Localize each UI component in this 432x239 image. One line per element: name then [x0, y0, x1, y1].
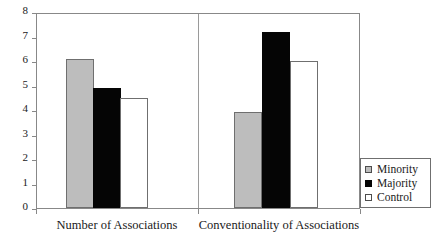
bar-chart: 876543210 Number of AssociationsConventi… — [0, 0, 432, 239]
chart-legend: MinorityMajorityControl — [360, 158, 431, 208]
x-axis-tick-mark — [36, 209, 37, 214]
x-axis-group-label: Conventionality of Associations — [169, 218, 389, 232]
bar-control-1 — [120, 98, 148, 208]
legend-swatch-icon — [365, 180, 372, 187]
y-axis-tick-label: 4 — [23, 103, 29, 114]
y-axis-tick-label: 5 — [23, 79, 29, 90]
plot-area — [36, 13, 360, 209]
bar-majority-1 — [93, 88, 121, 208]
legend-swatch-icon — [365, 194, 372, 201]
y-axis-tick-label: 8 — [23, 5, 29, 16]
legend-item-label: Minority — [377, 163, 418, 175]
legend-item-label: Control — [377, 191, 412, 203]
y-axis-tick-label: 7 — [23, 30, 29, 41]
x-axis-tick-mark — [198, 209, 199, 214]
y-axis-tick-label: 0 — [23, 201, 29, 212]
x-axis-tick-mark — [360, 209, 361, 214]
legend-item-control: Control — [365, 190, 427, 204]
y-axis-tick-label: 6 — [23, 54, 29, 65]
bar-majority-2 — [262, 32, 290, 208]
bar-control-2 — [290, 61, 318, 208]
y-axis-tick-label: 2 — [23, 152, 29, 163]
bar-minority-1 — [66, 59, 94, 208]
y-axis-tick-label: 1 — [23, 177, 29, 188]
legend-item-majority: Majority — [365, 176, 427, 190]
legend-item-label: Majority — [377, 177, 417, 189]
y-axis-tick-label: 3 — [23, 128, 29, 139]
legend-item-minority: Minority — [365, 162, 427, 176]
group-separator — [198, 14, 199, 208]
legend-swatch-icon — [365, 166, 372, 173]
bar-minority-2 — [234, 112, 262, 208]
